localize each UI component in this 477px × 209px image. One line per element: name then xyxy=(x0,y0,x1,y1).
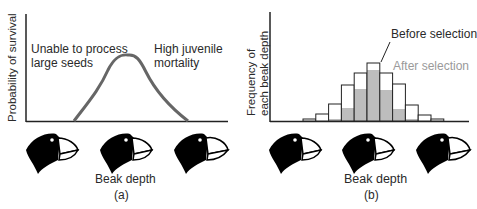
finch-head-icon xyxy=(342,134,394,174)
finch-head-icon xyxy=(269,134,321,174)
finch-head-icon xyxy=(416,134,470,174)
panel-a-survival-curve: Probability of survival Unable to proces… xyxy=(0,0,240,209)
panel-a-caption: (a) xyxy=(114,188,129,202)
panel-b-x-axis-label: Beak depth xyxy=(344,172,407,186)
finch-head-icon xyxy=(100,134,152,174)
finch-head-icon xyxy=(26,134,78,174)
panel-a-x-axis-label: Beak depth xyxy=(95,172,156,186)
panel-b-caption: (b) xyxy=(364,188,379,202)
finch-head-icon xyxy=(174,134,228,174)
panel-b-histogram: Frequency of each beak depth Before sele… xyxy=(240,0,477,209)
